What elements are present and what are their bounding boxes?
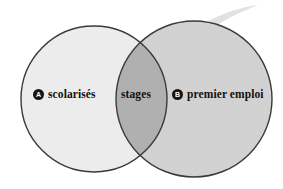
venn-diagram-figure: A scolarisés stages B premier emploi bbox=[0, 0, 283, 189]
venn-diagram-canvas bbox=[0, 0, 283, 189]
